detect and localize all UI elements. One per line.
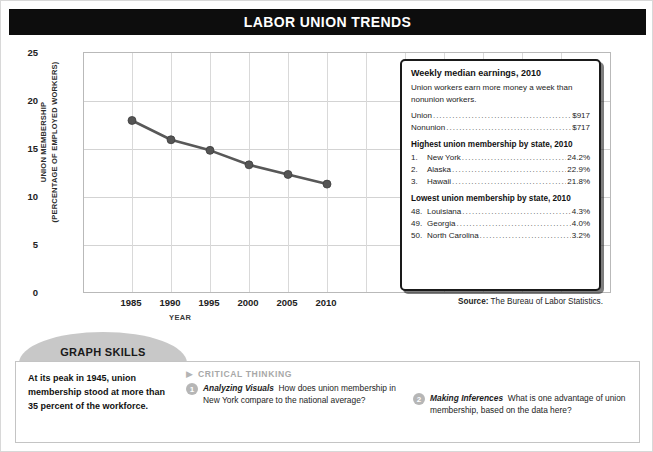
x-tick-1990: 1990 <box>150 297 190 308</box>
question-number-badge: 2 <box>413 393 425 405</box>
state-value: 22.9% <box>567 164 590 176</box>
question-number-badge: 1 <box>186 383 198 395</box>
rank: 1. <box>411 152 427 164</box>
highest-heading: Highest union membership by state, 2010 <box>411 140 590 149</box>
y-tick-15: 15 <box>12 143 38 154</box>
highest-row: 2. Alaska ..............................… <box>411 164 590 176</box>
earnings-heading: Weekly median earnings, 2010 <box>411 68 590 78</box>
y-tick-0: 0 <box>12 287 38 298</box>
leader-dots: ........................................… <box>452 164 566 176</box>
info-box: Weekly median earnings, 2010 Union worke… <box>400 59 601 291</box>
x-axis-label: YEAR <box>169 313 191 322</box>
state-name: Alaska <box>427 164 451 176</box>
question-body: Making Inferences What is one advantage … <box>430 392 633 416</box>
lowest-row: 49. Georgia ............................… <box>411 218 590 230</box>
question-body: Analyzing Visuals How does union members… <box>203 382 401 406</box>
critical-thinking-section: ▶ CRITICAL THINKING 1 Analyzing Visuals … <box>186 362 639 442</box>
question-column-1: 1 Analyzing Visuals How does union membe… <box>186 382 401 416</box>
state-value: 21.8% <box>567 176 590 188</box>
graph-skills-page: LABOR UNION TRENDS UNION MEMBERSHIP (PER… <box>0 0 653 452</box>
graph-skills-panel: At its peak in 1945, union membership st… <box>15 361 640 443</box>
earnings-label-union: Union <box>411 110 432 122</box>
state-value: 4.0% <box>572 218 590 230</box>
question-lead: Making Inferences <box>430 393 503 403</box>
state-value: 4.3% <box>572 206 590 218</box>
highest-row: 3. Hawaii ..............................… <box>411 176 590 188</box>
y-tick-5: 5 <box>12 239 38 250</box>
rank: 2. <box>411 164 427 176</box>
leader-dots: ........................................… <box>452 176 566 188</box>
state-value: 24.2% <box>567 152 590 164</box>
source-line: Source: The Bureau of Labor Statistics. <box>458 297 603 306</box>
graph-skills-tab: GRAPH SKILLS <box>19 332 187 363</box>
rank: 48. <box>411 206 427 218</box>
leader-dots: ........................................… <box>433 110 571 122</box>
graph-skills-label: GRAPH SKILLS <box>60 346 146 358</box>
leader-dots: ........................................… <box>480 230 571 242</box>
question-item: 1 Analyzing Visuals How does union membe… <box>186 382 401 406</box>
earnings-value-union: $917 <box>572 110 590 122</box>
x-tick-1995: 1995 <box>189 297 229 308</box>
state-name: Georgia <box>427 218 455 230</box>
y-axis-label: UNION MEMBERSHIP (PERCENTAGE OF EMPLOYED… <box>38 47 60 237</box>
source-label: Source: <box>458 297 488 306</box>
lowest-row: 48. Louisiana ..........................… <box>411 206 590 218</box>
x-tick-2010: 2010 <box>306 297 346 308</box>
state-name: New York <box>427 152 461 164</box>
page-title: LABOR UNION TRENDS <box>244 14 411 30</box>
leader-dots: ........................................… <box>462 206 571 218</box>
x-tick-2000: 2000 <box>228 297 268 308</box>
leader-dots: ........................................… <box>456 218 570 230</box>
x-tick-1985: 1985 <box>111 297 151 308</box>
state-name: North Carolina <box>427 230 479 242</box>
rank: 50. <box>411 230 427 242</box>
x-tick-2005: 2005 <box>267 297 307 308</box>
earnings-row-nonunion: Nonunion ...............................… <box>411 122 590 134</box>
question-item: 2 Making Inferences What is one advantag… <box>413 392 633 416</box>
question-column-2: 2 Making Inferences What is one advantag… <box>413 382 633 416</box>
y-tick-25: 25 <box>12 47 38 58</box>
leader-dots: ........................................… <box>446 122 571 134</box>
y-tick-20: 20 <box>12 95 38 106</box>
highest-row: 1. New York ............................… <box>411 152 590 164</box>
lowest-row: 50. North Carolina .....................… <box>411 230 590 242</box>
state-name: Hawaii <box>427 176 451 188</box>
y-axis-label-line2: (PERCENTAGE OF EMPLOYED WORKERS) <box>49 47 60 237</box>
earnings-value-nonunion: $717 <box>572 122 590 134</box>
earnings-row-union: Union ..................................… <box>411 110 590 122</box>
critical-thinking-header: ▶ CRITICAL THINKING <box>186 369 633 379</box>
earnings-note: Union workers earn more money a week tha… <box>411 82 590 105</box>
questions-columns: 1 Analyzing Visuals How does union membe… <box>186 382 633 416</box>
rank: 3. <box>411 176 427 188</box>
y-tick-10: 10 <box>12 191 38 202</box>
page-title-banner: LABOR UNION TRENDS <box>9 9 646 35</box>
critical-thinking-label: CRITICAL THINKING <box>198 369 292 379</box>
lowest-heading: Lowest union membership by state, 2010 <box>411 194 590 203</box>
question-lead: Analyzing Visuals <box>203 383 274 393</box>
rank: 49. <box>411 218 427 230</box>
triangle-right-icon: ▶ <box>186 370 193 379</box>
leader-dots: ........................................… <box>462 152 567 164</box>
chart-region: UNION MEMBERSHIP (PERCENTAGE OF EMPLOYED… <box>9 39 646 329</box>
earnings-label-nonunion: Nonunion <box>411 122 445 134</box>
graph-skills-fact: At its peak in 1945, union membership st… <box>16 362 186 442</box>
state-name: Louisiana <box>427 206 461 218</box>
y-axis-label-line1: UNION MEMBERSHIP <box>38 47 49 237</box>
source-text: The Bureau of Labor Statistics. <box>491 297 603 306</box>
state-value: 3.2% <box>572 230 590 242</box>
